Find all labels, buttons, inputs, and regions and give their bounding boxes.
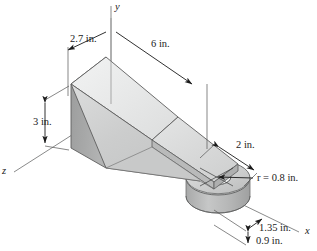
dimension-label-2p7: 2.7 in.: [70, 34, 97, 45]
dimension-label-radius: r = 0.8 in.: [257, 173, 298, 184]
axis-label-x: x: [305, 226, 310, 237]
dimension-label-1p35: 1.35 in.: [259, 223, 291, 234]
axis-label-y: y: [115, 2, 120, 13]
axis-label-z: z: [2, 166, 6, 177]
dimension-label-2: 2 in.: [236, 140, 255, 151]
dimension-label-6: 6 in.: [151, 39, 170, 50]
dimension-label-3: 3 in.: [33, 117, 52, 128]
dimension-label-0p9: 0.9 in.: [256, 236, 283, 247]
wedge-solid: [71, 57, 238, 189]
ext-3in-top: [45, 86, 69, 100]
